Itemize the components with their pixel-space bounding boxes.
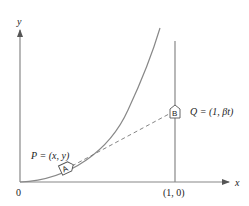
x-axis-label: x xyxy=(234,177,240,188)
marker-a: A xyxy=(58,160,75,175)
tick-label-1-0: (1, 0) xyxy=(163,187,185,199)
dashed-segment-pq xyxy=(72,114,169,166)
origin-label: 0 xyxy=(16,187,21,198)
point-q-label: Q = (1, βt) xyxy=(190,106,234,118)
point-p-label: P = (x, y) xyxy=(30,150,70,162)
marker-b: B xyxy=(170,105,180,118)
diagram-canvas: A B y x 0 (1, 0) P = (x, y) Q = (1, βt) xyxy=(0,0,249,206)
marker-b-label: B xyxy=(172,109,177,118)
y-axis-label: y xyxy=(16,16,22,27)
